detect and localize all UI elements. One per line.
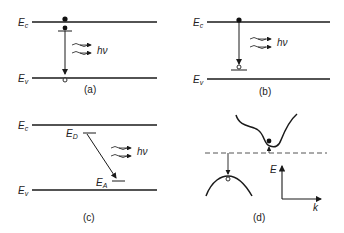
- panel-d: E k (d): [205, 114, 327, 223]
- electron-b: [236, 17, 241, 22]
- electron-a: [62, 16, 67, 21]
- band-diagram-figure: Ec hν Ev (a) Ec hν Ev (b) Ec ED: [0, 0, 344, 233]
- donor-label-c: ED: [66, 128, 78, 140]
- photon-label-c: hν: [137, 146, 148, 157]
- hole-acceptor-b: [237, 65, 241, 69]
- ev-label-c: Ev: [18, 185, 29, 197]
- k-axis-label: k: [313, 202, 319, 213]
- energy-axis-label: E: [270, 164, 277, 175]
- panel-b: Ec hν Ev (b): [193, 17, 330, 97]
- ec-label-a: Ec: [18, 17, 29, 29]
- ec-label-c: Ec: [18, 120, 29, 132]
- conduction-band-curve: [236, 114, 297, 147]
- electron-trap-a: [63, 26, 68, 31]
- caption-c: (c): [83, 212, 95, 223]
- caption-a: (a): [84, 84, 96, 95]
- hole-a: [63, 78, 67, 82]
- caption-b: (b): [259, 86, 271, 97]
- ec-label-b: Ec: [193, 17, 204, 29]
- electron-d: [267, 139, 272, 144]
- ev-label-a: Ev: [18, 73, 29, 85]
- hole-d: [226, 177, 230, 181]
- panel-c: Ec ED EA hν Ev (c): [18, 120, 157, 223]
- panel-a: Ec hν Ev (a): [18, 16, 157, 95]
- acceptor-label-c: EA: [96, 177, 108, 189]
- caption-d: (d): [253, 212, 265, 223]
- ev-label-b: Ev: [193, 74, 204, 86]
- photon-label-a: hν: [97, 45, 108, 56]
- photon-label-b: hν: [277, 37, 288, 48]
